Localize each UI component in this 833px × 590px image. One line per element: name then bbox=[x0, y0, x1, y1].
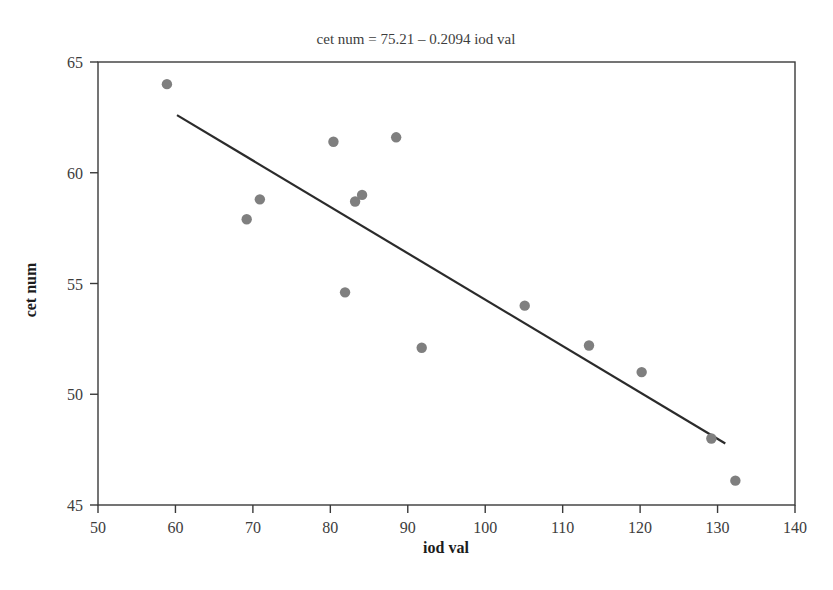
x-tick-label: 130 bbox=[706, 519, 730, 536]
data-point bbox=[162, 79, 172, 89]
regression-line bbox=[177, 115, 725, 443]
axis-label-group: iod val cet num bbox=[22, 262, 469, 556]
x-tick-label: 60 bbox=[167, 519, 183, 536]
x-tick-label: 70 bbox=[245, 519, 261, 536]
x-tick-label: 80 bbox=[322, 519, 338, 536]
chart-title: cet num = 75.21 – 0.2094 iod val bbox=[317, 31, 516, 47]
data-point bbox=[255, 194, 265, 204]
x-tick-label: 90 bbox=[400, 519, 416, 536]
y-tick-label: 55 bbox=[67, 276, 83, 293]
x-axis-ticks: 5060708090100110120130140 bbox=[90, 505, 807, 536]
x-tick-label: 50 bbox=[90, 519, 106, 536]
data-point bbox=[417, 343, 427, 353]
regression-line-group bbox=[177, 115, 725, 443]
chart-canvas: cet num = 75.21 – 0.2094 iod val 5060708… bbox=[0, 0, 833, 590]
data-point bbox=[636, 367, 646, 377]
plot-frame bbox=[98, 62, 795, 505]
data-point bbox=[340, 287, 350, 297]
y-tick-label: 65 bbox=[67, 54, 83, 71]
y-tick-label: 45 bbox=[67, 497, 83, 514]
y-axis-ticks: 4550556065 bbox=[67, 54, 98, 514]
data-points-group bbox=[162, 79, 741, 486]
y-tick-label: 60 bbox=[67, 165, 83, 182]
chart-title-group: cet num = 75.21 – 0.2094 iod val bbox=[317, 31, 516, 47]
data-point bbox=[584, 340, 594, 350]
data-point bbox=[328, 137, 338, 147]
x-tick-label: 110 bbox=[551, 519, 574, 536]
x-tick-label: 100 bbox=[473, 519, 497, 536]
data-point bbox=[706, 433, 716, 443]
x-tick-label: 120 bbox=[628, 519, 652, 536]
data-point bbox=[391, 132, 401, 142]
y-axis-label: cet num bbox=[22, 262, 39, 317]
x-axis-label: iod val bbox=[423, 539, 469, 556]
y-tick-label: 50 bbox=[67, 386, 83, 403]
regression-scatter-figure: cet num = 75.21 – 0.2094 iod val 5060708… bbox=[0, 0, 833, 590]
data-point bbox=[357, 190, 367, 200]
data-point bbox=[730, 475, 740, 485]
data-point bbox=[520, 300, 530, 310]
x-tick-label: 140 bbox=[783, 519, 807, 536]
data-point bbox=[241, 214, 251, 224]
plot-border bbox=[98, 62, 795, 505]
